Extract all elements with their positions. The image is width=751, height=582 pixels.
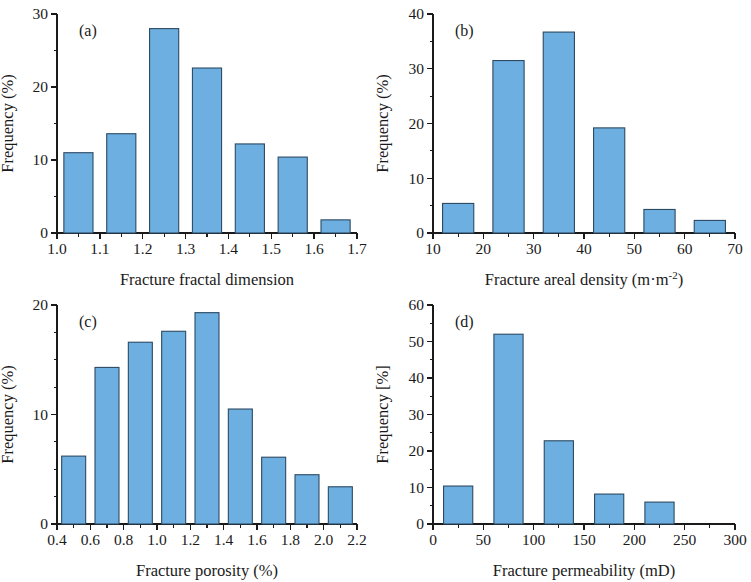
x-tick-label: 100 (522, 531, 546, 548)
x-tick-label: 1.4 (214, 531, 234, 548)
y-tick-label: 0 (40, 224, 48, 241)
histogram-bar (95, 367, 119, 524)
x-axis-title: Fracture porosity (%) (136, 561, 278, 580)
y-tick-label: 20 (33, 296, 49, 313)
histogram-bar (195, 313, 219, 524)
histogram-bar (644, 209, 675, 233)
x-tick-label: 300 (723, 531, 747, 548)
chart-panel-c: 010200.40.60.81.01.21.41.61.82.02.2(c)Fr… (0, 291, 375, 582)
x-tick-label: 20 (476, 240, 492, 257)
x-tick-label: 200 (623, 531, 647, 548)
y-tick-label: 20 (409, 115, 425, 132)
y-axis-title: Frequency (%) (0, 365, 17, 464)
histogram-bar (228, 409, 252, 524)
x-tick-label: 0.8 (114, 531, 134, 548)
histogram-bar (443, 203, 474, 233)
histogram-bar (543, 32, 574, 233)
y-axis-title: Frequency [%] (375, 365, 392, 464)
histogram-bar (645, 502, 674, 524)
chart-panel-b: 01020304010203040506070(b)Fracture areal… (375, 0, 751, 291)
histogram-bar (107, 134, 136, 233)
histogram-bar (694, 220, 725, 233)
histogram-bar (328, 487, 352, 524)
y-tick-label: 0 (416, 224, 424, 241)
histogram-bar (544, 441, 573, 524)
x-tick-label: 70 (727, 240, 743, 257)
x-tick-label: 250 (673, 531, 697, 548)
panel-tag: (b) (455, 22, 474, 40)
axis-lines (433, 305, 735, 524)
y-tick-label: 60 (409, 296, 425, 313)
y-tick-label: 20 (33, 78, 49, 95)
x-tick-label: 1.0 (47, 240, 67, 257)
x-tick-label: 1.4 (219, 240, 239, 257)
y-tick-label: 40 (409, 369, 425, 386)
x-tick-label: 0.6 (81, 531, 101, 548)
x-axis-title: Fracture permeability (mD) (493, 561, 675, 580)
x-tick-label: 50 (476, 531, 492, 548)
y-tick-label: 30 (33, 5, 49, 22)
y-tick-label: 0 (416, 515, 424, 532)
histogram-bar (64, 153, 93, 233)
y-tick-label: 10 (409, 479, 425, 496)
histogram-bar (150, 29, 179, 233)
x-tick-label: 30 (526, 240, 542, 257)
y-tick-label: 0 (40, 515, 48, 532)
histogram-bar (235, 144, 264, 233)
x-tick-label: 10 (425, 240, 441, 257)
histogram-bar (128, 342, 152, 524)
panel-tag: (c) (79, 313, 97, 331)
histogram-bar (278, 157, 307, 233)
x-tick-label: 1.6 (247, 531, 267, 548)
y-tick-label: 10 (33, 151, 49, 168)
x-tick-label: 60 (677, 240, 693, 257)
x-tick-label: 1.3 (176, 240, 196, 257)
histogram-bar (162, 331, 186, 524)
x-tick-label: 150 (572, 531, 596, 548)
panel-tag: (a) (79, 22, 97, 40)
histogram-bar (444, 486, 473, 524)
histogram-figure: 01020301.01.11.21.31.41.51.61.7(a)Fractu… (0, 0, 751, 582)
x-tick-label: 1.1 (90, 240, 109, 257)
x-tick-label: 1.7 (347, 240, 367, 257)
histogram-bar (594, 128, 625, 233)
y-axis-title: Frequency (%) (375, 74, 392, 173)
histogram-bar (595, 494, 624, 524)
x-tick-label: 1.5 (262, 240, 282, 257)
axis-lines (433, 14, 735, 233)
histogram-bar (321, 220, 350, 233)
y-tick-label: 50 (409, 333, 425, 350)
x-tick-label: 1.0 (147, 531, 167, 548)
y-tick-label: 40 (409, 5, 425, 22)
y-axis-title: Frequency (%) (0, 74, 17, 173)
x-tick-label: 1.6 (304, 240, 324, 257)
histogram-bar (192, 68, 221, 233)
x-tick-label: 2.2 (347, 531, 366, 548)
x-tick-label: 2.0 (314, 531, 334, 548)
x-tick-label: 1.2 (133, 240, 152, 257)
histogram-bar (493, 61, 524, 233)
histogram-bar (262, 457, 286, 524)
x-tick-label: 40 (576, 240, 592, 257)
y-tick-label: 30 (409, 60, 425, 77)
y-tick-label: 10 (409, 170, 425, 187)
chart-panel-a: 01020301.01.11.21.31.41.51.61.7(a)Fractu… (0, 0, 375, 291)
histogram-bar (62, 456, 86, 524)
x-axis-title: Fracture areal density (m·m-2) (485, 269, 683, 289)
x-axis-title: Fracture fractal dimension (120, 270, 294, 289)
panel-tag: (d) (455, 313, 474, 331)
histogram-bar (295, 475, 319, 524)
histogram-bar (494, 334, 523, 524)
chart-panel-d: 0102030405060050100150200250300(d)Fractu… (375, 291, 751, 582)
x-tick-label: 50 (627, 240, 643, 257)
x-tick-label: 0 (429, 531, 437, 548)
y-tick-label: 10 (33, 406, 49, 423)
y-tick-label: 30 (409, 406, 425, 423)
x-tick-label: 0.4 (47, 531, 67, 548)
y-tick-label: 20 (409, 442, 425, 459)
x-tick-label: 1.8 (281, 531, 301, 548)
x-tick-label: 1.2 (181, 531, 200, 548)
